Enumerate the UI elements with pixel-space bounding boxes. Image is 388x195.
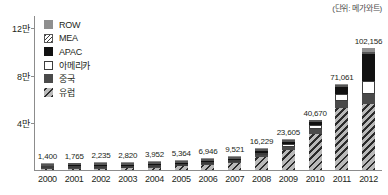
legend-label-china: 중국 (59, 72, 75, 85)
legend-label-americas: 아메리카 (59, 59, 90, 72)
bar-stack[interactable]: 71,061 (335, 84, 348, 170)
x-axis-label: 2000 (34, 174, 61, 190)
bar-value-label: 40,670 (303, 109, 326, 118)
legend-item-europe[interactable]: 유럽 (44, 86, 139, 99)
unit-caption: (단위: 메가와트) (332, 2, 382, 13)
bar-segment-europe (362, 104, 375, 170)
x-axis-label: 2009 (275, 174, 302, 190)
bar-segment-europe (309, 134, 322, 170)
y-axis-tick-label: 4만 (17, 117, 30, 130)
bar-stack[interactable]: 3,952 (148, 161, 161, 170)
x-axis-label: 2001 (61, 174, 88, 190)
legend-item-mea[interactable]: MEA (44, 32, 139, 45)
x-axis-label: 2003 (114, 174, 141, 190)
legend-item-americas[interactable]: 아메리카 (44, 59, 139, 72)
bar-slot: 6,946 (195, 16, 222, 170)
bar-segment-europe (282, 150, 295, 170)
legend-swatch-europe (44, 88, 53, 97)
bar-segment-americas (362, 81, 375, 94)
bar-value-label: 9,521 (225, 145, 244, 154)
x-axis-label: 2004 (141, 174, 168, 190)
bar-value-label: 71,061 (330, 73, 353, 82)
bar-segment-europe (228, 163, 241, 170)
legend-item-row[interactable]: ROW (44, 18, 139, 31)
bar-segment-europe (148, 168, 161, 171)
bar-segment-europe (175, 166, 188, 170)
bar-segment-apac (362, 54, 375, 80)
bar-value-label: 102,156 (355, 37, 383, 46)
bar-stack[interactable]: 5,364 (175, 160, 188, 170)
bar-stack[interactable]: 2,235 (94, 162, 107, 170)
bar-segment-china (362, 94, 375, 104)
bar-slot: 71,061 (328, 16, 355, 170)
legend-swatch-china (44, 74, 53, 83)
legend-swatch-apac (44, 47, 53, 56)
x-axis-label: 2012 (355, 174, 382, 190)
legend-item-apac[interactable]: APAC (44, 45, 139, 58)
x-axis-label: 2007 (221, 174, 248, 190)
bar-value-label: 1,400 (38, 152, 57, 161)
legend-label-apac: APAC (59, 47, 82, 57)
x-axis-label: 2002 (88, 174, 115, 190)
bar-slot: 16,229 (248, 16, 275, 170)
y-axis-tick-label: 12만 (12, 21, 30, 34)
bar-segment-europe (68, 169, 81, 170)
bar-value-label: 5,364 (172, 149, 191, 158)
bar-value-label: 2,820 (118, 151, 137, 160)
x-axis-line (34, 170, 382, 171)
bar-slot: 40,670 (302, 16, 329, 170)
legend-swatch-row (44, 20, 53, 29)
bar-value-label: 23,605 (277, 128, 300, 137)
bar-segment-europe (255, 157, 268, 170)
bar-slot: 3,952 (141, 16, 168, 170)
bar-stack[interactable]: 9,521 (228, 156, 241, 170)
bar-slot: 102,156 (355, 16, 382, 170)
bar-segment-americas (335, 94, 348, 101)
bar-segment-apac (335, 87, 348, 94)
x-axis-label: 2008 (248, 174, 275, 190)
bar-segment-europe (121, 168, 134, 170)
bar-slot: 23,605 (275, 16, 302, 170)
bar-stack[interactable]: 6,946 (201, 158, 214, 170)
bar-segment-europe (94, 169, 107, 170)
bar-stack[interactable]: 16,229 (255, 148, 268, 170)
bar-stack[interactable]: 40,670 (309, 120, 322, 170)
y-axis-tick-label: 8만 (17, 69, 30, 82)
x-axis-label: 2006 (195, 174, 222, 190)
legend-label-mea: MEA (59, 33, 78, 43)
bar-stack[interactable]: 2,820 (121, 162, 134, 170)
legend-swatch-americas (44, 61, 53, 70)
bar-value-label: 3,952 (145, 150, 164, 159)
x-axis-label: 2005 (168, 174, 195, 190)
legend-swatch-mea (44, 34, 53, 43)
bar-segment-europe (335, 108, 348, 170)
bar-slot: 9,521 (221, 16, 248, 170)
x-axis-label: 2010 (302, 174, 329, 190)
bar-value-label: 1,765 (65, 152, 84, 161)
bar-value-label: 6,946 (198, 147, 217, 156)
bar-segment-europe (41, 169, 54, 170)
x-axis-label: 2011 (328, 174, 355, 190)
bar-slot: 5,364 (168, 16, 195, 170)
bar-stack[interactable]: 23,605 (282, 139, 295, 170)
x-axis-labels: 2000200120022003200420052006200720082009… (34, 174, 382, 190)
bar-segment-europe (201, 165, 214, 170)
chart-container: (단위: 메가와트) 12만8만4만 1,4001,7652,2352,8203… (0, 0, 388, 195)
legend-item-china[interactable]: 중국 (44, 72, 139, 85)
bar-value-label: 2,235 (91, 151, 110, 160)
legend-label-europe: 유럽 (59, 86, 75, 99)
legend: ROWMEAAPAC아메리카중국유럽 (44, 18, 139, 99)
bar-stack[interactable]: 1,400 (41, 163, 54, 170)
legend-label-row: ROW (59, 20, 80, 30)
bar-value-label: 16,229 (250, 137, 273, 146)
bar-stack[interactable]: 102,156 (362, 48, 375, 170)
bar-stack[interactable]: 1,765 (68, 163, 81, 170)
